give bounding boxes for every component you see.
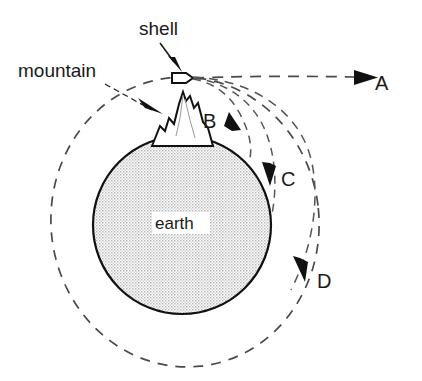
trajectory-d-arrowhead bbox=[293, 256, 308, 282]
trajectory-label-c: C bbox=[281, 168, 295, 190]
trajectory-label-b: B bbox=[203, 110, 216, 132]
figure-root: shell mountain A B C D earth bbox=[0, 0, 422, 381]
trajectory-b-arrowhead bbox=[224, 112, 241, 131]
trajectory-c-arrowhead bbox=[262, 162, 276, 186]
trajectory-label-a: A bbox=[375, 72, 389, 94]
mountain-annotation: mountain bbox=[18, 60, 163, 114]
earth-label: earth bbox=[155, 214, 194, 233]
earth-annotation: earth bbox=[152, 212, 210, 234]
mountain-label: mountain bbox=[18, 60, 96, 81]
newtons-cannonball-diagram: shell mountain A B C D earth bbox=[0, 0, 422, 381]
mountain-pointer-arrowhead bbox=[138, 98, 163, 114]
projectile-shell bbox=[172, 73, 193, 83]
shell-label: shell bbox=[139, 18, 178, 39]
shell-pointer-arrowhead bbox=[168, 56, 182, 72]
trajectory-label-d: D bbox=[317, 270, 331, 292]
shell-annotation: shell bbox=[139, 18, 182, 72]
